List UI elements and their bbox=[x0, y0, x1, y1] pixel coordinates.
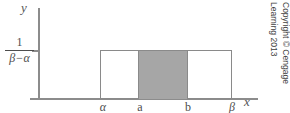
x-tick-label-a: a bbox=[130, 100, 150, 113]
fraction-numerator: 1 bbox=[3, 36, 36, 50]
x-tick-label-b: b bbox=[178, 100, 198, 113]
copyright-line-1: Copyright © Cengage bbox=[280, 2, 290, 112]
y-axis-line bbox=[38, 8, 40, 100]
density-height-label: 1 β−α bbox=[3, 36, 36, 64]
fraction-denominator: β−α bbox=[3, 51, 36, 65]
y-axis-label: y bbox=[21, 0, 27, 16]
uniform-distribution-figure: y x 1 β−α α a b β Copyright © Cengage Le… bbox=[0, 0, 290, 113]
shaded-probability-region bbox=[138, 51, 188, 99]
x-tick-label-alpha: α bbox=[93, 100, 113, 113]
x-axis-label: x bbox=[244, 94, 250, 110]
x-tick-label-beta: β bbox=[222, 100, 242, 113]
copyright-line-2: Learning 2013 bbox=[267, 2, 279, 112]
copyright-notice: Copyright © Cengage Learning 2013 bbox=[252, 2, 290, 112]
